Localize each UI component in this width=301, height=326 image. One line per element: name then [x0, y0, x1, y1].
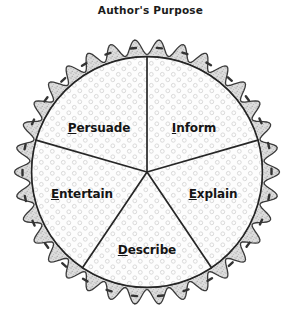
slice-rest-inform: nform: [176, 121, 216, 135]
slice-initial-explain: E: [189, 187, 197, 201]
pie-svg: [0, 22, 301, 322]
slice-rest-persuade: ersuade: [76, 121, 130, 135]
slice-label-entertain: Entertain: [51, 187, 113, 201]
slice-label-persuade: Persuade: [68, 121, 131, 135]
slice-initial-entertain: E: [51, 187, 59, 201]
pie-chart-authors-purpose: Persuade Inform Explain Describe Enterta…: [0, 22, 301, 322]
slice-initial-persuade: P: [68, 121, 77, 135]
slice-label-explain: Explain: [189, 187, 238, 201]
page-title: Author's Purpose: [0, 4, 301, 16]
slice-rest-entertain: ntertain: [59, 187, 113, 201]
slice-rest-explain: xplain: [197, 187, 238, 201]
slice-label-inform: Inform: [172, 121, 216, 135]
slice-rest-describe: escribe: [128, 243, 176, 257]
slice-initial-describe: D: [118, 243, 128, 257]
slice-label-describe: Describe: [118, 243, 176, 257]
